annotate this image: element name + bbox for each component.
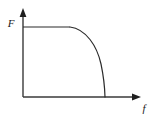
figure-container: F f <box>0 0 152 120</box>
y-axis-label: F <box>7 17 15 29</box>
y-axis-arrowhead <box>20 8 27 17</box>
x-axis-arrowhead <box>132 94 141 101</box>
force-frequency-diagram: F f <box>0 0 152 120</box>
x-axis-label: f <box>142 102 147 114</box>
curve-decay-segment <box>70 27 105 97</box>
